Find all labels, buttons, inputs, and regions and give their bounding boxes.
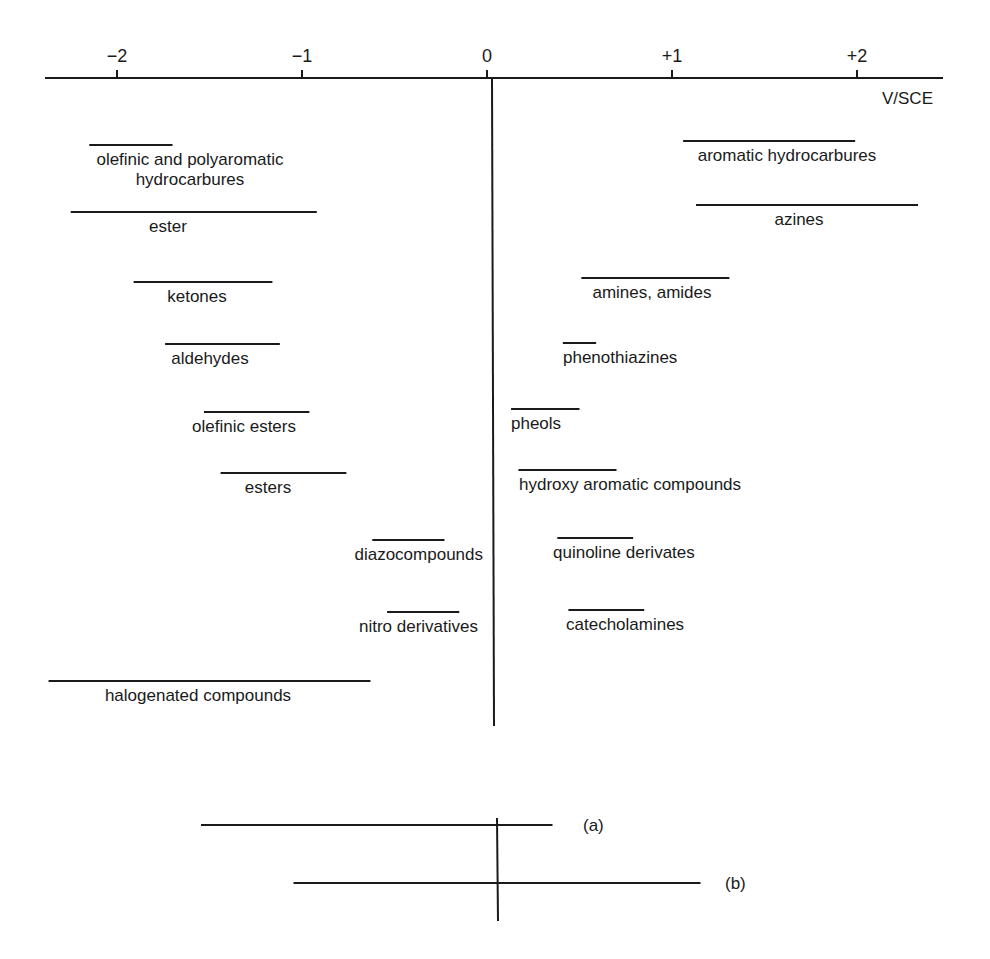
bar-label: halogenated compounds [105, 686, 291, 705]
bar-label: nitro derivatives [359, 617, 478, 636]
oxidation-range-item: pheols [511, 409, 580, 433]
reduction-range-item: diazocompounds [354, 540, 483, 564]
bar-label: amines, amides [592, 283, 711, 302]
electrode-window-label: (b) [725, 874, 746, 893]
bar-label: azines [774, 210, 823, 229]
bar-label: ketones [167, 287, 227, 306]
bar-label: aromatic hydrocarbures [698, 146, 877, 165]
reduction-range-item: esters [221, 473, 347, 497]
oxidation-range-item: quinoline derivates [553, 538, 695, 562]
bar-label: ester [149, 217, 187, 236]
oxidation-range-item: azines [696, 205, 918, 229]
bar-label: olefinic and polyaromatic [96, 150, 284, 169]
x-tick-label: −2 [107, 46, 128, 66]
bar-label: pheols [511, 414, 561, 433]
zero-potential-line [492, 78, 494, 726]
oxidation-range-item: phenothiazines [563, 343, 678, 367]
bar-label: phenothiazines [563, 348, 677, 367]
bar-label: catecholamines [566, 615, 684, 634]
zero-reference-line [497, 818, 498, 921]
x-tick-label: 0 [482, 46, 492, 66]
bar-label: aldehydes [171, 349, 249, 368]
bar-label: olefinic esters [192, 417, 296, 436]
reduction-range-item: olefinic esters [192, 412, 309, 436]
oxidation-range-item: aromatic hydrocarbures [683, 141, 876, 165]
oxidation-range-item: catecholamines [566, 610, 684, 634]
reduction-range-item: aldehydes [165, 344, 280, 368]
bar-label: quinoline derivates [553, 543, 695, 562]
electrode-window-label: (a) [583, 816, 604, 835]
bar-label: diazocompounds [354, 545, 483, 564]
reduction-range-item: olefinic and polyaromatichydrocarbures [89, 145, 284, 189]
electrode-windows: (a)(b) [201, 816, 746, 921]
bar-label: hydroxy aromatic compounds [519, 475, 741, 494]
reduction-range-item: ketones [134, 282, 273, 306]
range-bars: olefinic and polyaromatichydrocarbureses… [49, 141, 919, 705]
x-tick-label: +2 [847, 46, 868, 66]
reduction-range-item: ester [71, 212, 317, 236]
x-tick-label: −1 [292, 46, 313, 66]
x-tick-label: +1 [662, 46, 683, 66]
bar-label: esters [245, 478, 291, 497]
oxidation-range-item: hydroxy aromatic compounds [518, 470, 741, 494]
x-axis-unit-label: V/SCE [882, 89, 933, 108]
reduction-range-item: nitro derivatives [359, 612, 478, 636]
electrochemical-potential-chart: −2−10+1+2V/SCE olefinic and polyaromatic… [0, 0, 990, 959]
bar-label: hydrocarbures [136, 170, 245, 189]
reduction-range-item: halogenated compounds [49, 681, 371, 705]
oxidation-range-item: amines, amides [581, 278, 729, 302]
